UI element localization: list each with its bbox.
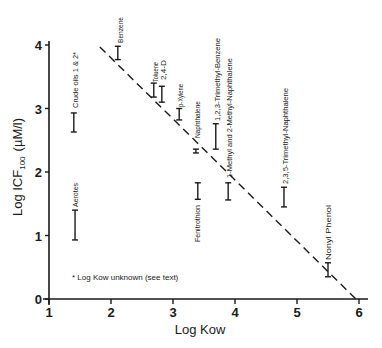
point-label: Naphthalene (193, 101, 202, 138)
scatter-plot: 01234123456 Crude oils 1 & 2*AerotesBenz… (0, 0, 382, 348)
point-label: 2,3,5-Trimethyl-Naphthalene (281, 87, 290, 184)
point-label: 1,2,3-Trimethyl-Benzene (213, 37, 222, 121)
point-label: 2,4-D (159, 60, 168, 80)
error-bar (72, 210, 78, 240)
y-axis-title-units: (µM/l) (10, 118, 25, 151)
x-tick-label: 1 (45, 305, 52, 320)
y-tick-label: 0 (35, 292, 42, 307)
point-label: p-Xylene (176, 84, 185, 107)
x-tick-label: 3 (169, 305, 176, 320)
x-axis-title: Log Kow (175, 322, 226, 337)
error-bar (176, 109, 182, 120)
y-axis-title-main: Log ICF (10, 170, 25, 216)
error-bar (151, 83, 157, 97)
x-tick-label: 4 (231, 305, 239, 320)
error-bar (213, 124, 219, 149)
y-axis-title-subscript: 100 (18, 156, 27, 170)
y-tick-label: 2 (35, 165, 42, 180)
point-labels: Crude oils 1 & 2*AerotesBenzeneToluene2,… (71, 17, 333, 260)
footnote-annotation: * Log Kow unknown (see text) (72, 273, 179, 282)
point-label: Nonyl Phenol (324, 205, 333, 260)
error-bar (193, 149, 199, 153)
point-label: Crude oils 1 & 2* (71, 52, 80, 108)
x-tick-label: 2 (107, 305, 114, 320)
chart-container: 01234123456 Crude oils 1 & 2*AerotesBenz… (0, 0, 382, 348)
error-bar (159, 86, 165, 102)
error-bar (225, 183, 231, 200)
point-label: Benzene (116, 17, 125, 43)
y-tick-label: 4 (35, 38, 43, 53)
y-axis-title: Log ICF100(µM/l) (10, 118, 27, 216)
point-label: Fenitrothion (193, 205, 202, 242)
x-tick-label: 6 (355, 305, 362, 320)
y-tick-label: 3 (35, 102, 42, 117)
y-tick-label: 1 (35, 229, 42, 244)
point-label: Aerotes (71, 183, 80, 207)
axes (43, 41, 368, 305)
x-tick-label: 5 (293, 305, 300, 320)
error-bar (115, 46, 121, 59)
error-bar (195, 183, 201, 200)
error-bar (71, 113, 77, 132)
error-bar (281, 187, 287, 207)
point-label: 1-Methyl and 2-Methyl-Naphthalene (225, 57, 234, 178)
